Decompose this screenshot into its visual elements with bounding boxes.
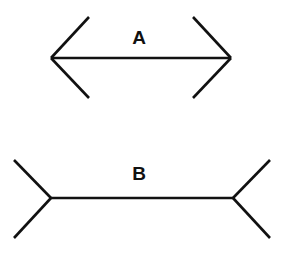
figure-b-fin-left-upper bbox=[14, 160, 51, 198]
illusion-diagram: A B bbox=[0, 0, 290, 254]
figure-a-fin-left-lower bbox=[51, 58, 89, 98]
figure-a-label: A bbox=[132, 27, 146, 48]
figure-a-fin-left-upper bbox=[51, 17, 89, 58]
diagram-svg: A B bbox=[0, 0, 290, 254]
figure-a-fin-right-upper bbox=[193, 17, 231, 58]
figure-a-fin-right-lower bbox=[193, 58, 231, 98]
figure-b-label: B bbox=[132, 163, 146, 184]
figure-b: B bbox=[14, 160, 270, 238]
figure-b-fin-right-lower bbox=[233, 198, 270, 238]
figure-a: A bbox=[51, 17, 231, 98]
figure-b-fin-right-upper bbox=[233, 160, 270, 198]
figure-b-fin-left-lower bbox=[14, 198, 51, 238]
